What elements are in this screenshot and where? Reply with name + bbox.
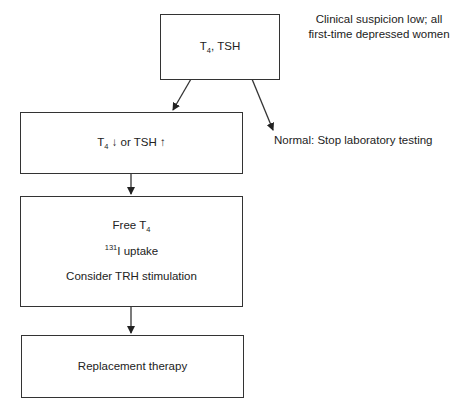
- node-initial-tests: T4, TSH: [160, 14, 280, 80]
- node-abnormal-result: T4 ↓ or TSH ↑: [20, 112, 243, 174]
- arrow-start-to-normal: [252, 79, 273, 130]
- workup-trh-stimulation: Consider TRH stimulation: [66, 271, 197, 283]
- replacement-therapy-label: Replacement therapy: [78, 361, 187, 373]
- criteria-annotation: Clinical suspicion low; all first-time d…: [304, 12, 454, 42]
- abnormal-result-label: T4 ↓ or TSH ↑: [97, 137, 166, 149]
- normal-outcome-annotation: Normal: Stop laboratory testing: [274, 133, 433, 148]
- workup-iodine-uptake: 131I uptake: [105, 246, 158, 258]
- workup-free-t4: Free T4: [113, 220, 151, 232]
- node-further-workup: Free T4 131I uptake Consider TRH stimula…: [20, 196, 243, 307]
- criteria-line-2: first-time depressed women: [304, 27, 454, 42]
- node-replacement-therapy: Replacement therapy: [21, 335, 244, 398]
- criteria-line-1: Clinical suspicion low; all: [304, 12, 454, 27]
- initial-tests-label: T4, TSH: [200, 41, 240, 53]
- arrow-start-to-abnormal: [173, 79, 191, 110]
